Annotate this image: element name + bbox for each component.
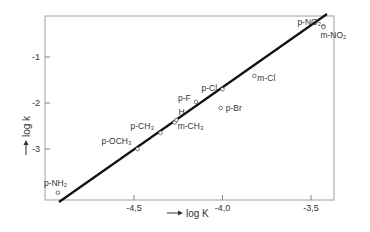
y-tick-label: -3 xyxy=(32,144,40,154)
x-tick-label: -4,5 xyxy=(126,203,142,213)
chart-svg: -4,5-4,0-3,5 -1-2-3 p-NH₂p-OCH₃p-CH₃m-CH… xyxy=(0,0,370,232)
data-point xyxy=(253,74,257,78)
point-label: p-CH₃ xyxy=(131,121,154,131)
scatter-chart: -4,5-4,0-3,5 -1-2-3 p-NH₂p-OCH₃p-CH₃m-CH… xyxy=(0,0,370,232)
y-axis-ticks: -1-2-3 xyxy=(32,52,50,154)
y-axis-label: log k xyxy=(21,115,32,155)
x-axis-title: log K xyxy=(186,208,209,219)
data-point xyxy=(221,87,225,91)
point-label: m-NO₂ xyxy=(320,30,346,40)
regression-line xyxy=(59,14,327,202)
x-tick-label: -4,0 xyxy=(215,203,231,213)
point-label: p-OCH₃ xyxy=(102,136,132,146)
data-point xyxy=(175,118,179,122)
y-tick-label: -1 xyxy=(32,52,40,62)
point-label: m-CH₃ xyxy=(178,121,204,131)
point-label: p-F xyxy=(178,93,191,103)
data-point xyxy=(136,147,140,151)
data-point xyxy=(194,100,198,104)
plot-frame xyxy=(45,16,334,200)
point-label: p-Cl xyxy=(202,83,218,93)
point-label: p-NO₂ xyxy=(297,17,321,27)
data-point xyxy=(159,131,163,135)
y-axis-title: log k xyxy=(21,115,32,137)
data-point xyxy=(219,106,223,110)
point-label: p-NH₂ xyxy=(44,178,67,188)
data-point xyxy=(322,25,326,29)
x-axis-label: log K xyxy=(167,208,209,219)
point-label: H xyxy=(178,107,184,117)
y-tick-label: -2 xyxy=(32,98,40,108)
point-label: m-Cl xyxy=(257,73,275,83)
point-label: p-Br xyxy=(226,103,242,113)
data-point xyxy=(56,191,60,195)
x-axis-ticks: -4,5-4,0-3,5 xyxy=(126,195,319,213)
x-tick-label: -3,5 xyxy=(303,203,319,213)
